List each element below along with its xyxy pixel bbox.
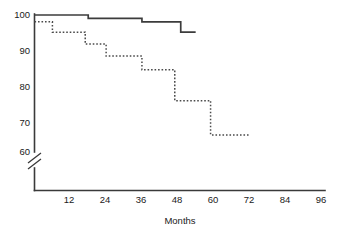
y-tick-label-90: 90 bbox=[19, 45, 30, 56]
x-tick-label-96: 96 bbox=[316, 194, 327, 205]
series-solid-curve bbox=[35, 15, 196, 32]
y-tick-label-80: 80 bbox=[19, 81, 30, 92]
x-axis-title: Months bbox=[164, 215, 195, 226]
chart-svg: 100 90 80 70 60 12 24 36 48 60 72 84 96 … bbox=[0, 0, 338, 244]
y-tick-label-100: 100 bbox=[14, 9, 30, 20]
x-tick-label-48: 48 bbox=[172, 194, 183, 205]
x-tick-label-36: 36 bbox=[136, 194, 147, 205]
x-tick-label-84: 84 bbox=[280, 194, 291, 205]
x-tick-label-12: 12 bbox=[64, 194, 75, 205]
x-tick-label-60: 60 bbox=[208, 194, 219, 205]
x-tick-label-72: 72 bbox=[244, 194, 255, 205]
x-tick-label-24: 24 bbox=[100, 194, 111, 205]
series-dotted-curve bbox=[35, 22, 250, 135]
y-tick-label-70: 70 bbox=[19, 117, 30, 128]
y-tick-label-60: 60 bbox=[19, 146, 30, 157]
survival-chart: 100 90 80 70 60 12 24 36 48 60 72 84 96 … bbox=[0, 0, 338, 244]
